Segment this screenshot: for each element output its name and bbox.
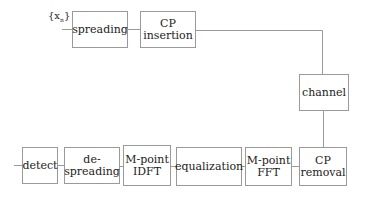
block-detect: detect xyxy=(22,147,58,184)
block-label: spreading xyxy=(64,166,120,178)
block-de-spreading: de- spreading xyxy=(64,147,120,184)
block-m-point-fft: M-point FFT xyxy=(245,147,292,186)
block-label: channel xyxy=(302,87,346,99)
block-cp-removal: CP removal xyxy=(299,147,347,186)
input-symbol: {x xyxy=(48,10,60,21)
input-symbol-close: } xyxy=(64,10,70,21)
block-label: spreading xyxy=(72,24,128,36)
block-label: FFT xyxy=(257,167,280,179)
block-label: CP xyxy=(160,18,176,30)
block-label: removal xyxy=(300,167,345,179)
block-label: equalization xyxy=(175,161,243,173)
block-label: M-point xyxy=(125,154,169,166)
block-label: M-point xyxy=(247,155,291,167)
block-label: CP xyxy=(315,155,331,167)
block-spreading: spreading xyxy=(72,11,128,48)
block-cp-insertion: CP insertion xyxy=(140,11,196,48)
input-symbol-label: {xn} xyxy=(48,10,70,23)
block-label: de- xyxy=(83,154,100,166)
block-label: IDFT xyxy=(133,166,161,178)
block-label: insertion xyxy=(143,30,193,42)
block-channel: channel xyxy=(299,74,349,111)
block-m-point-idft: M-point IDFT xyxy=(123,145,171,186)
block-equalization: equalization xyxy=(176,147,242,186)
block-label: detect xyxy=(22,160,57,172)
